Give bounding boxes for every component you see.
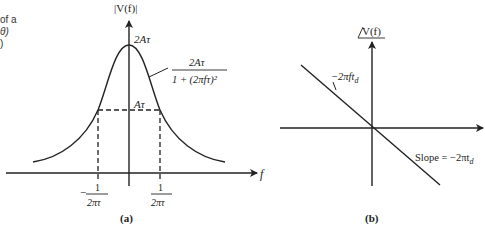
peak-label: 2Aτ [134, 33, 151, 45]
left-tick-denominator: 2πτ [87, 197, 101, 208]
panel-a-magnitude-plot: |V(f)| 2Aτ Aτ 2Aτ 1 + (2πfτ)² f − 1 2πτ … [6, 2, 265, 225]
right-tick-denominator: 2πτ [151, 197, 165, 208]
left-tick-sign: − [80, 186, 86, 198]
phase-axis-label: V(f) [358, 25, 385, 38]
curve-label-denominator: 1 + (2πfτ)² [172, 74, 218, 86]
phase-line-label: −2πftd [331, 71, 359, 85]
x-axis-label: f [260, 167, 265, 181]
y-axis-label: |V(f)| [114, 2, 137, 15]
phase-axis-label-text: V(f) [362, 25, 381, 38]
figure: of a θ) ) |V(f)| 2Aτ Aτ 2Aτ 1 + (2πfτ)² … [0, 0, 485, 228]
caption-line-2: θ) [0, 26, 9, 37]
curve-label-leader [149, 68, 168, 77]
left-tick-numerator: 1 [95, 182, 100, 193]
right-tick-numerator: 1 [158, 182, 163, 193]
half-height-label: Aτ [133, 98, 146, 110]
caption-line-1: of a [0, 14, 17, 25]
slope-label: Slope = −2πtd [415, 152, 474, 166]
panel-a-label: (a) [120, 212, 133, 225]
curve-label-numerator: 2Aτ [189, 57, 206, 68]
linear-phase-line [301, 65, 440, 185]
caption-fragment: of a θ) ) [0, 14, 17, 49]
panel-b-label: (b) [365, 212, 379, 225]
caption-line-3: ) [0, 38, 3, 49]
panel-b-phase-plot: V(f) −2πftd Slope = −2πtd (b) [280, 25, 483, 225]
phase-label-leader [333, 82, 336, 90]
